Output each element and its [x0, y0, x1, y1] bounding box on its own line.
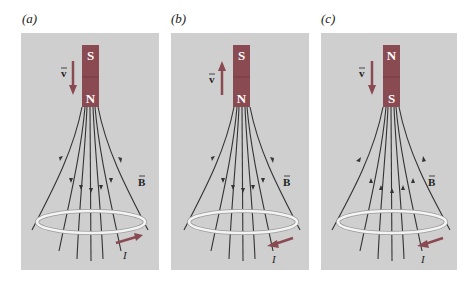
magnet-top-pole: S: [87, 48, 94, 63]
magnet-top-pole: N: [387, 48, 397, 63]
current-label: I: [122, 249, 128, 261]
field-label: B: [428, 176, 436, 188]
current-arrow: [417, 238, 443, 248]
panel-b-label: (b): [171, 11, 186, 27]
velocity-label: v: [61, 67, 67, 79]
magnet-bottom-pole: N: [86, 91, 96, 106]
velocity-arrow-up: [218, 61, 226, 95]
panel-a: S N v B I: [21, 33, 159, 270]
current-arrow: [116, 233, 143, 243]
panel-b: S N v B I: [171, 33, 309, 270]
panel-c-label: (c): [321, 11, 335, 27]
panel-c-diagram: N S v B I: [321, 33, 457, 270]
velocity-label: v: [359, 67, 365, 79]
panel-a-label: (a): [22, 11, 37, 27]
magnet-top-pole: S: [238, 48, 245, 63]
field-label: B: [138, 176, 146, 188]
field-label: B: [283, 176, 291, 188]
velocity-label: v: [209, 73, 215, 85]
magnet-bottom-pole: S: [388, 91, 395, 106]
panel-c: N S v B I: [321, 33, 457, 270]
velocity-arrow-down: [368, 61, 376, 95]
magnet-bottom-pole: N: [237, 91, 247, 106]
panel-a-diagram: S N v B I: [21, 33, 159, 270]
panel-b-diagram: S N v B I: [171, 33, 309, 270]
velocity-arrow-down: [69, 61, 77, 95]
current-label: I: [271, 253, 277, 265]
current-label: I: [420, 253, 426, 265]
